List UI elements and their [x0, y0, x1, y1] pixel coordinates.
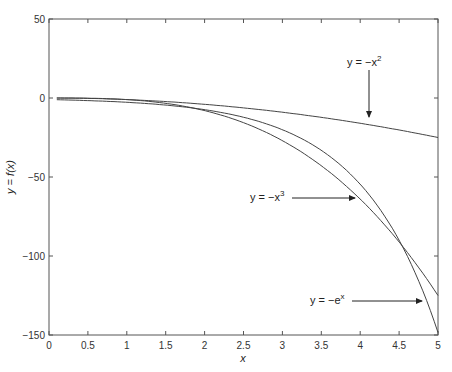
- x-tick-label: 0: [46, 340, 52, 351]
- x-tick-label: 3.5: [314, 340, 328, 351]
- annotations: y = −x2y = −x3y = −ex: [250, 54, 422, 306]
- curves: [57, 98, 438, 333]
- x-tick-label: 0.5: [81, 340, 95, 351]
- curve-neg-x-cubed: [57, 98, 438, 296]
- x-tick-label: 1: [124, 340, 130, 351]
- y-tick-label: 50: [34, 14, 46, 25]
- y-tick-label: −150: [22, 330, 45, 341]
- x-tick-label: 5: [435, 340, 441, 351]
- annotation-neg-x-squared: y = −x2: [347, 54, 382, 68]
- plot-frame: [49, 19, 438, 335]
- x-axis-label: x: [239, 352, 246, 364]
- y-axis-label: y = f(x): [4, 160, 16, 195]
- y-tick-label: −100: [22, 251, 45, 262]
- y-tick-label: −50: [28, 172, 45, 183]
- x-tick-label: 1.5: [159, 340, 173, 351]
- annotation-neg-x-cubed: y = −x3: [250, 189, 285, 203]
- y-tick-label: 0: [39, 93, 45, 104]
- x-tick-label: 4: [357, 340, 363, 351]
- chart-figure: 00.511.522.533.544.55500−50−100−150 y = …: [0, 0, 452, 372]
- axis-ticks: 00.511.522.533.544.55500−50−100−150: [22, 14, 441, 351]
- x-tick-label: 3: [280, 340, 286, 351]
- annotation-neg-exp-x: y = −ex: [310, 292, 345, 306]
- curve-neg-exp-x: [57, 100, 438, 333]
- x-tick-label: 4.5: [392, 340, 406, 351]
- x-tick-label: 2: [202, 340, 208, 351]
- x-tick-label: 2.5: [237, 340, 251, 351]
